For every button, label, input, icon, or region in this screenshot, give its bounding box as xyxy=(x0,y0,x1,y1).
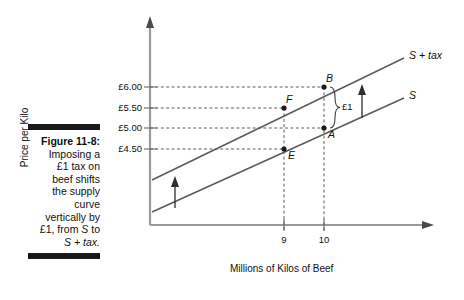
caption-line-6: vertically by xyxy=(45,211,100,223)
caption-bar-bottom xyxy=(28,253,100,259)
tax-amount-label: £1 xyxy=(342,101,353,112)
caption-text: Figure 11-8: Imposing a £1 tax on beef s… xyxy=(14,135,100,248)
caption-bar-top xyxy=(28,124,100,130)
x-tick-label-10: 10 xyxy=(314,234,334,245)
x-axis-title: Millions of Kilos of Beef xyxy=(230,263,333,274)
point-e-marker xyxy=(281,146,286,151)
caption-line-3: beef shifts xyxy=(52,173,100,185)
caption-line-2: £1 tax on xyxy=(57,160,100,172)
y-tick-label-4-50: £4.50 xyxy=(96,143,142,154)
shift-arrow-left-head xyxy=(171,176,179,187)
x-tick-label-9: 9 xyxy=(274,234,294,245)
y-tick-label-5-00: £5.00 xyxy=(96,122,142,133)
caption-line-8: S + tax. xyxy=(64,236,100,248)
y-tick-label-5-50: £5.50 xyxy=(96,102,142,113)
point-label-e: E xyxy=(288,149,295,161)
curve-s-plus-tax xyxy=(152,58,404,180)
point-label-b: B xyxy=(326,72,333,84)
caption-line-4: the supply xyxy=(52,185,100,197)
caption-line-5: curve xyxy=(74,198,100,210)
curve-label-s-plus-tax: S + tax xyxy=(409,49,442,61)
shift-arrow-right-head xyxy=(358,84,366,95)
caption-label: Figure 11-8: xyxy=(41,135,100,147)
curve-label-s: S xyxy=(409,89,416,101)
y-axis-arrowhead xyxy=(146,16,154,28)
supply-curves xyxy=(152,58,404,212)
point-label-f: F xyxy=(286,93,292,105)
caption-line-7: £1, from S to xyxy=(40,223,100,235)
figure-caption: Figure 11-8: Imposing a £1 tax on beef s… xyxy=(14,124,100,259)
curve-s xyxy=(152,98,404,212)
axes xyxy=(146,16,434,229)
point-a-marker xyxy=(321,125,326,130)
y-tick-label-6-00: £6.00 xyxy=(96,81,142,92)
caption-line-1: Imposing a xyxy=(49,148,100,160)
point-label-a: A xyxy=(328,128,335,140)
point-b-marker xyxy=(321,84,326,89)
point-f-marker xyxy=(281,105,286,110)
x-axis-arrowhead xyxy=(422,221,434,229)
